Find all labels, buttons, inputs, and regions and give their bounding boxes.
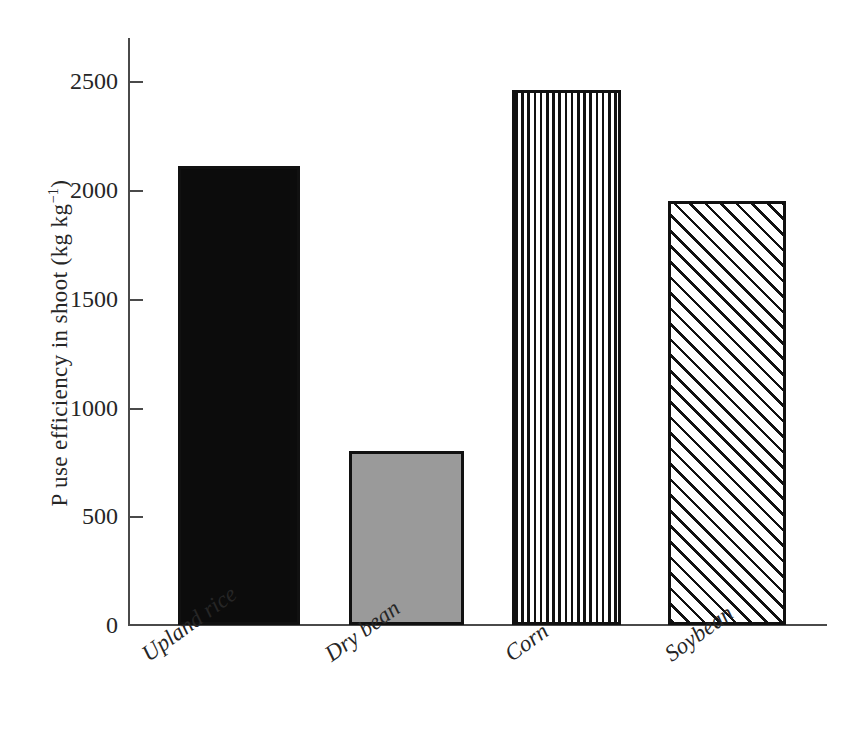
y-axis-title-main: P use efficiency in shoot (kg kg <box>47 204 72 507</box>
bar-fill-solid-black <box>181 169 297 622</box>
bar-fill-diagonal-hatch <box>671 204 783 622</box>
bar-chart-figure: P use efficiency in shoot (kg kg−1) 0500… <box>0 0 855 755</box>
y-tick-label-2500: 2500 <box>18 68 118 95</box>
bar-soybean <box>668 201 786 625</box>
y-tick-label-0: 0 <box>18 612 118 639</box>
y-tick-label-500: 500 <box>18 503 118 530</box>
plot-area <box>128 38 827 625</box>
y-tick-label-1500: 1500 <box>18 285 118 312</box>
y-tick-label-1000: 1000 <box>18 394 118 421</box>
bar-corn <box>512 90 621 625</box>
bar-fill-vertical-stripes <box>515 93 618 622</box>
bar-fill-solid-gray <box>352 454 461 622</box>
y-tick-label-2000: 2000 <box>18 177 118 204</box>
bar-upland-rice <box>178 166 300 625</box>
bar-dry-bean <box>349 451 464 625</box>
